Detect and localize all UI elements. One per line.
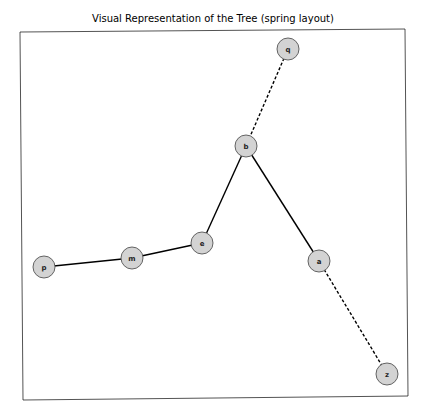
node-q: q — [277, 38, 299, 60]
edge-q-b — [246, 49, 288, 146]
edges-layer — [44, 49, 387, 374]
node-label-p: p — [41, 264, 46, 272]
nodes-layer: qbempaz — [33, 38, 398, 385]
node-label-e: e — [200, 240, 205, 248]
node-label-q: q — [285, 46, 290, 54]
node-e: e — [191, 232, 213, 254]
node-a: a — [308, 250, 330, 272]
edge-b-e — [202, 146, 246, 243]
plot-frame — [20, 29, 408, 400]
node-m: m — [121, 247, 143, 269]
node-label-b: b — [243, 143, 248, 151]
tree-graph: qbempaz — [0, 0, 426, 413]
node-label-z: z — [385, 371, 389, 379]
node-p: p — [33, 256, 55, 278]
node-label-a: a — [317, 258, 322, 266]
edge-b-a — [246, 146, 319, 261]
node-z: z — [376, 363, 398, 385]
node-b: b — [235, 135, 257, 157]
edge-a-z — [319, 261, 387, 374]
node-label-m: m — [128, 255, 135, 263]
edge-m-p — [44, 258, 132, 267]
